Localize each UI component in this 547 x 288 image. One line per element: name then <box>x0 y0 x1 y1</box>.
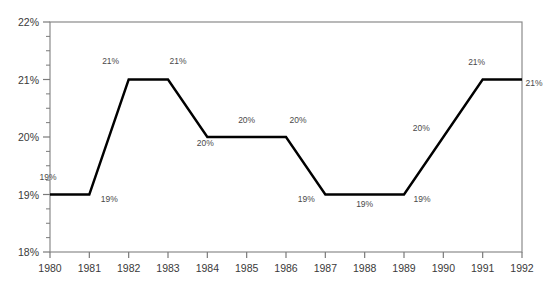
y-axis-tick-label: 20% <box>0 132 39 143</box>
x-axis-tick-label: 1992 <box>500 263 544 274</box>
x-axis-tick-marks <box>50 252 522 258</box>
line-chart: 18%19%20%21%22% 198019811982198319841985… <box>0 0 547 288</box>
x-axis-tick-label: 1980 <box>28 263 72 274</box>
x-axis-tick-label: 1989 <box>382 263 426 274</box>
x-axis-tick-label: 1988 <box>343 263 387 274</box>
data-point-value-label: 20% <box>404 124 438 133</box>
data-point-value-label: 19% <box>92 195 126 204</box>
data-point-value-label: 20% <box>281 116 315 125</box>
x-axis-tick-label: 1983 <box>146 263 190 274</box>
data-point-value-label: 20% <box>188 139 222 148</box>
x-axis-tick-label: 1987 <box>303 263 347 274</box>
data-point-value-label: 19% <box>405 195 439 204</box>
x-axis-tick-label: 1991 <box>461 263 505 274</box>
data-series-line <box>50 80 522 195</box>
y-axis-tick-label: 21% <box>0 75 39 86</box>
x-axis-tick-label: 1982 <box>107 263 151 274</box>
data-point-value-label: 21% <box>94 57 128 66</box>
y-axis-tick-label: 22% <box>0 17 39 28</box>
data-point-value-label: 20% <box>230 116 264 125</box>
data-point-value-label: 21% <box>460 58 494 67</box>
x-axis-tick-label: 1986 <box>264 263 308 274</box>
x-axis-tick-label: 1990 <box>421 263 465 274</box>
data-point-value-label: 19% <box>348 200 382 209</box>
y-axis-tick-label: 19% <box>0 190 39 201</box>
data-point-value-label: 19% <box>289 195 323 204</box>
y-axis-tick-marks <box>43 22 50 252</box>
data-point-value-label: 21% <box>161 57 195 66</box>
data-point-value-label: 21% <box>517 79 547 88</box>
x-axis-tick-label: 1985 <box>225 263 269 274</box>
y-axis-tick-label: 18% <box>0 247 39 258</box>
x-axis-tick-label: 1984 <box>185 263 229 274</box>
x-axis-tick-label: 1981 <box>67 263 111 274</box>
data-point-value-label: 19% <box>31 173 65 182</box>
chart-canvas <box>0 0 547 288</box>
